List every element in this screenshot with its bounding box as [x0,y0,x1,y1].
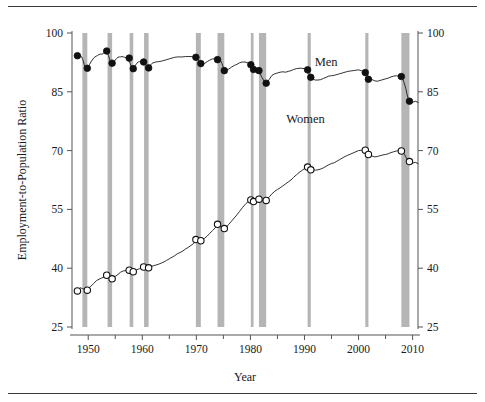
x-tick-label-1950: 1950 [77,343,100,355]
marker-women-trough-9 [198,238,204,244]
employment-ratio-chart: 2540557085100254055708510019501960197019… [0,0,485,402]
marker-men-peak-8 [193,54,200,61]
y-tick-label-right-100: 100 [427,27,445,39]
y-tick-label-right-85: 85 [427,86,439,98]
recession-band-6 [251,33,254,327]
y-tick-label-right-25: 25 [427,321,439,333]
marker-women-trough-19 [365,151,371,157]
x-tick-label-1980: 1980 [239,343,262,355]
recession-band-7 [259,33,266,327]
marker-men-peak-18 [362,69,369,76]
x-axis-title: Year [234,370,256,384]
marker-men-peak-6 [140,59,147,66]
y-tick-label-right-70: 70 [427,145,439,157]
recession-band-2 [130,33,134,327]
recession-band-0 [82,33,87,327]
y-tick-label-right-55: 55 [427,203,439,215]
marker-women-trough-5 [130,269,136,275]
marker-men-trough-19 [365,76,372,83]
marker-women-trough-17 [308,167,314,173]
figure-container: 2540557085100254055708510019501960197019… [0,0,485,402]
x-tick-label-1960: 1960 [131,343,154,355]
chart-axes: 2540557085100254055708510019501960197019… [46,27,445,355]
y-axis-title: Employment-to-Population Ratio [15,100,29,260]
marker-men-trough-15 [263,80,270,87]
marker-men-trough-17 [307,74,314,81]
x-tick-label-2000: 2000 [347,343,370,355]
marker-women-trough-7 [145,265,151,271]
marker-women-trough-15 [263,197,269,203]
marker-women-trough-11 [221,225,227,231]
marker-men-trough-21 [406,98,413,105]
y-tick-label-right-40: 40 [427,262,439,274]
marker-women-peak-14 [256,196,262,202]
women-label: Women [286,112,325,126]
marker-women-peak-20 [398,148,404,154]
y-tick-label-left-25: 25 [52,321,64,333]
recession-band-5 [218,33,225,327]
marker-men-peak-4 [126,55,133,62]
marker-women-peak-0 [74,288,80,294]
marker-men-trough-9 [198,60,205,67]
marker-men-trough-3 [109,60,116,67]
recession-bands [82,33,409,327]
men-label: Men [315,55,339,69]
marker-men-peak-14 [256,67,263,74]
y-tick-label-left-85: 85 [52,86,64,98]
x-tick-label-1990: 1990 [293,343,316,355]
x-tick-label-1970: 1970 [185,343,208,355]
y-tick-label-left-100: 100 [46,27,64,39]
recession-band-4 [196,33,201,327]
marker-men-trough-7 [145,65,152,72]
marker-men-trough-11 [221,67,228,74]
marker-men-trough-1 [84,65,91,72]
marker-men-peak-16 [304,67,311,74]
y-tick-label-left-40: 40 [52,262,64,274]
marker-women-peak-10 [214,221,220,227]
marker-women-trough-1 [84,287,90,293]
marker-men-peak-10 [214,56,221,63]
marker-men-peak-2 [103,48,110,55]
marker-men-trough-5 [130,65,137,72]
marker-men-peak-20 [398,73,405,80]
marker-men-peak-0 [74,52,81,59]
marker-women-trough-21 [406,158,412,164]
recession-band-1 [108,33,113,327]
y-tick-label-left-70: 70 [52,145,64,157]
y-tick-label-left-55: 55 [52,203,64,215]
recession-band-3 [144,33,149,327]
marker-women-trough-3 [109,276,115,282]
x-tick-label-2010: 2010 [401,343,424,355]
